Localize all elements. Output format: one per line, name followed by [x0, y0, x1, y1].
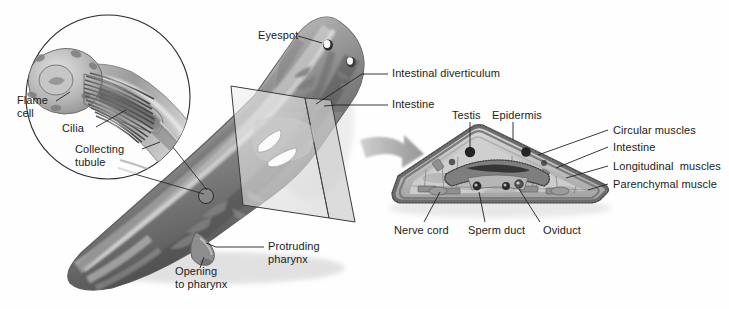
label-protruding-pharynx: Protruding pharynx [268, 240, 320, 266]
label-testis: Testis [452, 109, 481, 122]
label-longitudinal-muscles: Longitudinal muscles [613, 160, 721, 173]
planarian-anatomy-figure: Flame cell Cilia Collecting tubule Eyesp… [0, 0, 729, 309]
cross-section-art [388, 125, 612, 218]
label-intestinal-diverticulum: Intestinal diverticulum [392, 67, 500, 80]
label-circular-muscles: Circular muscles [613, 124, 696, 137]
inset-origin-marker [199, 189, 214, 204]
label-sperm-duct: Sperm duct [468, 224, 525, 237]
label-oviduct: Oviduct [543, 224, 581, 237]
label-intestine-cs: Intestine [613, 141, 655, 154]
label-intestine-body: Intestine [392, 98, 434, 111]
label-nerve-cord: Nerve cord [394, 224, 449, 237]
label-cilia: Cilia [62, 122, 84, 135]
label-flame-cell: Flame cell [17, 94, 48, 120]
label-opening-to-pharynx: Opening to pharynx [175, 265, 227, 291]
label-parenchymal-muscle: Parenchymal muscle [613, 178, 717, 191]
label-eyespot: Eyespot [258, 29, 298, 42]
label-collecting-tubule: Collecting tubule [75, 143, 124, 169]
transition-arrow [360, 135, 424, 168]
label-epidermis: Epidermis [492, 109, 542, 122]
